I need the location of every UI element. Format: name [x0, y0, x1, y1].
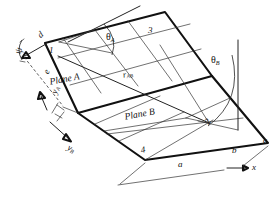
- technical-diagram-figure: Plane A Plane B 1 3 2 4 θA θB rAB a b c …: [0, 0, 279, 197]
- theta-b-label: θB: [211, 55, 220, 66]
- plane-b-outline: [78, 76, 268, 160]
- x-axis-label: x: [252, 163, 256, 172]
- node-1-label: 1: [49, 46, 54, 55]
- theta-a-label: θA: [106, 32, 115, 43]
- node-3-label: 3: [148, 26, 153, 35]
- diagram-canvas: [0, 0, 279, 197]
- secondary-diagonal: [160, 45, 209, 123]
- point-b-label: b: [232, 146, 237, 155]
- point-c-label: c: [263, 136, 267, 145]
- yb-axis-arrow: [50, 122, 71, 142]
- plane-a-outline: [45, 12, 212, 113]
- theta-b-subscript: B: [216, 59, 220, 66]
- node-4-label: 4: [140, 145, 146, 155]
- point-a-label: a: [178, 160, 183, 169]
- theta-a-subscript: A: [111, 36, 115, 43]
- r-ab-subscript: AB: [126, 72, 134, 79]
